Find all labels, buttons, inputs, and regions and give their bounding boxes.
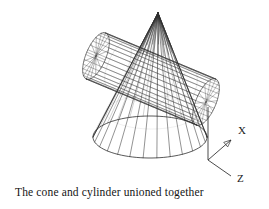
axis-label-x: X [238, 124, 246, 136]
csg-wireframe-illustration: X Z [0, 0, 269, 209]
figure-canvas: X Z The cone and cylinder unioned togeth… [0, 0, 269, 209]
coordinate-axes [208, 107, 231, 176]
axis-label-z: Z [237, 172, 244, 184]
figure-caption: The cone and cylinder unioned together [15, 186, 255, 198]
